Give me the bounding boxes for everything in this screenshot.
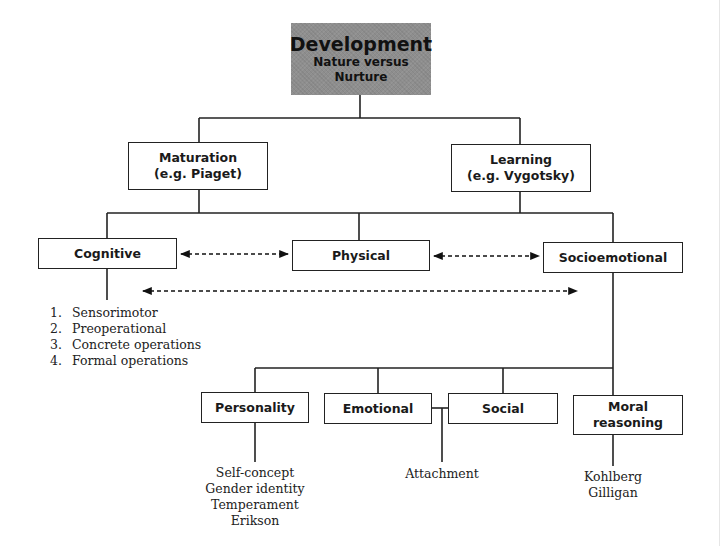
emotional-label: Emotional [343,401,414,417]
maturation-label: Maturation [159,150,237,166]
root-subtitle-2: Nurture [335,70,388,85]
social-label: Social [482,401,524,417]
node-social: Social [448,393,558,424]
list-item: Kohlberg [573,469,653,485]
moral-label-2: reasoning [593,415,663,431]
node-development: Development Nature versus Nurture [291,23,431,95]
moral-label-1: Moral [608,399,648,415]
node-learning: Learning (e.g. Vygotsky) [451,144,591,192]
node-physical: Physical [292,240,430,271]
stage-item: 3.Concrete operations [50,337,201,353]
learning-label: Learning [490,152,552,168]
root-title: Development [290,33,432,55]
node-personality: Personality [201,392,309,423]
list-item: Gilligan [573,485,653,501]
stage-item: 1.Sensorimotor [50,305,201,321]
node-maturation: Maturation (e.g. Piaget) [128,142,268,190]
scan-edge [719,0,720,546]
personality-label: Personality [215,400,295,416]
node-moral-reasoning: Moral reasoning [573,395,683,435]
cognitive-stages-list: 1.Sensorimotor 2.Preoperational 3.Concre… [50,305,201,369]
learning-example: (e.g. Vygotsky) [467,168,575,184]
root-subtitle-1: Nature versus [313,55,408,70]
moral-items: Kohlberg Gilligan [573,469,653,501]
stage-item: 2.Preoperational [50,321,201,337]
node-emotional: Emotional [324,393,432,424]
list-item: Self-concept [205,465,305,481]
node-cognitive: Cognitive [38,238,177,269]
emotional-social-items: Attachment [392,466,492,482]
node-socioemotional: Socioemotional [543,242,683,273]
list-item: Temperament [205,497,305,513]
maturation-example: (e.g. Piaget) [154,166,242,182]
physical-label: Physical [332,248,390,264]
socioemotional-label: Socioemotional [559,250,667,266]
cognitive-label: Cognitive [74,246,141,262]
list-item: Gender identity [205,481,305,497]
list-item: Erikson [205,513,305,529]
personality-items: Self-concept Gender identity Temperament… [205,465,305,529]
list-item: Attachment [392,466,492,482]
stage-item: 4.Formal operations [50,353,201,369]
